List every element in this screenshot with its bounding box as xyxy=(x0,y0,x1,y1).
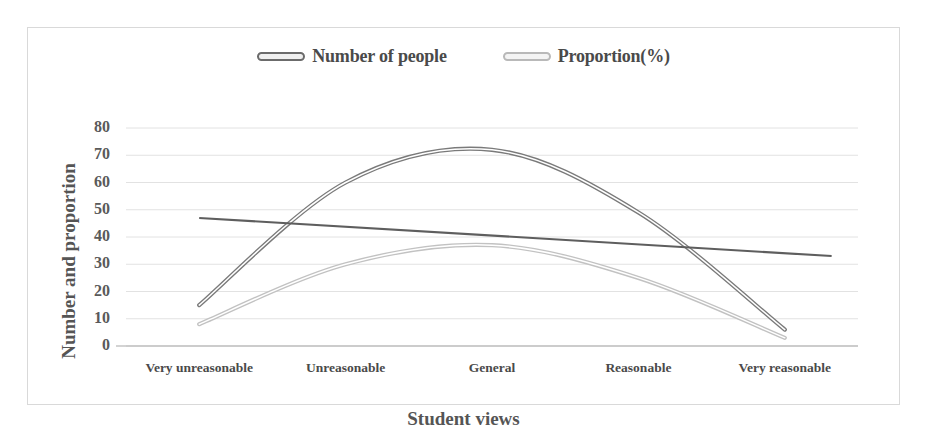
y-tick-label: 10 xyxy=(70,309,110,327)
x-axis-title: Student views xyxy=(28,408,899,430)
y-tick-label: 70 xyxy=(70,145,110,163)
y-tick-label: 50 xyxy=(70,200,110,218)
chart-screenshot: Number of people Proportion(%) Number an… xyxy=(0,0,929,432)
y-tick-label: 80 xyxy=(70,118,110,136)
x-tick-label: Very unreasonable xyxy=(126,360,272,376)
series-line-outer-0 xyxy=(199,149,785,330)
y-tick-label: 30 xyxy=(70,254,110,272)
y-tick-label: 20 xyxy=(70,282,110,300)
y-tick-label: 0 xyxy=(70,336,110,354)
series-line-inner-0 xyxy=(199,149,785,330)
x-tick-label: Very reasonable xyxy=(712,360,858,376)
y-tick-label: 40 xyxy=(70,227,110,245)
chart-frame: Number of people Proportion(%) Number an… xyxy=(27,27,900,405)
plot-area: 80706050403020100Very unreasonableUnreas… xyxy=(28,28,901,406)
y-tick-label: 60 xyxy=(70,173,110,191)
x-tick-label: Unreasonable xyxy=(272,360,418,376)
plot-svg xyxy=(28,28,901,406)
x-tick-label: General xyxy=(419,360,565,376)
x-tick-label: Reasonable xyxy=(565,360,711,376)
